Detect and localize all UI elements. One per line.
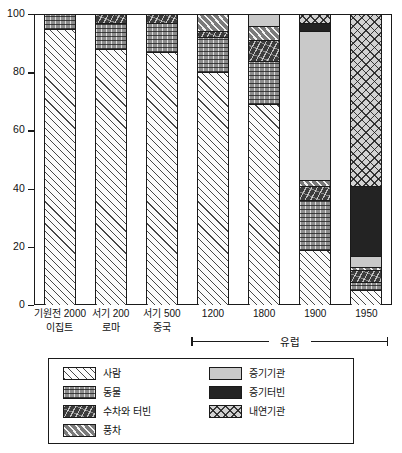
legend-label: 풍차 (103, 424, 121, 438)
stacked-bar (350, 14, 382, 305)
bar-segment (350, 270, 382, 282)
bar-segment (299, 14, 331, 23)
bar-segment (299, 200, 331, 249)
bar-segment (44, 29, 76, 305)
legend-swatch (63, 367, 96, 380)
europe-bracket: 유럽 (34, 333, 392, 351)
bar-segment (350, 186, 382, 256)
stacked-bar (299, 14, 331, 305)
stacked-bar (146, 14, 178, 305)
legend-swatch (209, 386, 242, 399)
bar-segment (350, 267, 382, 270)
bar-segment (350, 14, 382, 186)
legend-swatch (63, 386, 96, 399)
x-axis-label-line2: 로마 (85, 321, 136, 335)
stacked-bar (44, 14, 76, 305)
x-axis-label: 1800 (239, 307, 290, 321)
bar-segment (197, 72, 229, 305)
bar-segment (44, 14, 76, 29)
x-axis-label: 서기 200로마 (85, 307, 136, 334)
europe-label: 유럽 (273, 334, 307, 349)
x-axis-label-line1: 서기 200 (85, 307, 136, 321)
bar-segment (248, 14, 280, 26)
bar-segment (146, 23, 178, 52)
bar-segment (248, 61, 280, 105)
x-axis-label: 1950 (341, 307, 392, 321)
stacked-bar (197, 14, 229, 305)
x-axis-label-line1: 서기 500 (136, 307, 187, 321)
bar-segment (299, 180, 331, 186)
bar-segment (299, 186, 331, 201)
bar-segment (350, 282, 382, 291)
bracket-line-right (311, 341, 388, 342)
bracket-line-left (191, 341, 268, 342)
legend-swatch (63, 424, 96, 437)
x-axis-label-line1: 1800 (239, 307, 290, 321)
bar-segment (95, 14, 127, 23)
chart-root: 100806040200 기원전 2000이집트서기 200로마서기 500중국… (0, 0, 402, 453)
x-axis-label-line1: 1200 (187, 307, 238, 321)
bar-segment (299, 31, 331, 179)
bar-segment (95, 23, 127, 49)
y-axis-tick-label: 0 (19, 298, 25, 310)
legend-swatch (209, 367, 242, 380)
stacked-bars-group (34, 14, 392, 305)
legend-swatch (63, 405, 96, 418)
legend-label: 증기터빈 (249, 386, 285, 400)
x-axis-label-line1: 기원전 2000 (34, 307, 85, 321)
x-axis-label: 서기 500중국 (136, 307, 187, 334)
bar-segment (197, 37, 229, 72)
legend-swatch (209, 405, 242, 418)
x-axis-label-line2: 중국 (136, 321, 187, 335)
legend-label: 증기기관 (249, 367, 285, 381)
bar-segment (299, 23, 331, 32)
stacked-bar (95, 14, 127, 305)
y-axis-tick-label: 20 (13, 240, 25, 252)
x-axis-label: 1200 (187, 307, 238, 321)
stacked-bar (248, 14, 280, 305)
x-axis-label: 1900 (290, 307, 341, 321)
x-axis-label: 기원전 2000이집트 (34, 307, 85, 334)
bar-segment (95, 49, 127, 305)
bar-segment (197, 31, 229, 37)
bar-segment (248, 26, 280, 41)
legend-label: 동물 (103, 386, 121, 400)
legend-box: 사람동물수차와 터빈풍차증기기관증기터빈내연기관 (48, 358, 354, 444)
bar-segment (248, 104, 280, 305)
bar-segment (299, 250, 331, 305)
y-axis-tick-label: 80 (13, 65, 25, 77)
bracket-cap-right (387, 337, 388, 346)
bar-segment (350, 256, 382, 268)
legend-label: 수차와 터빈 (103, 405, 151, 419)
y-axis-tick-label: 60 (13, 123, 25, 135)
bar-segment (197, 14, 229, 31)
y-axis-tick-label: 100 (7, 7, 25, 19)
y-axis-tick-label: 40 (13, 182, 25, 194)
bar-segment (248, 40, 280, 60)
x-axis-label-line2: 이집트 (34, 321, 85, 335)
bar-segment (146, 52, 178, 305)
legend-label: 사람 (103, 367, 121, 381)
bar-segment (146, 14, 178, 23)
x-axis-label-line1: 1900 (290, 307, 341, 321)
x-axis-label-line1: 1950 (341, 307, 392, 321)
legend-label: 내연기관 (249, 405, 285, 419)
bar-segment (350, 290, 382, 305)
